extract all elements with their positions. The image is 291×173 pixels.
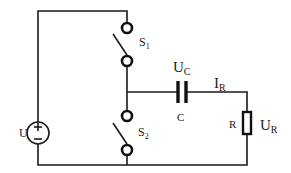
switch-s1: S1	[113, 23, 150, 66]
s1-top-terminal-icon	[122, 23, 132, 33]
s2-top-terminal-icon	[122, 111, 132, 121]
resistor-voltage-label: UR	[260, 117, 278, 135]
resistor: R UR	[229, 112, 278, 135]
s1-bottom-terminal-icon	[122, 56, 132, 66]
capacitor-voltage-label: UC	[173, 59, 191, 77]
s2-blade-icon	[113, 123, 127, 144]
circuit-diagram: U S1 S2 C UC IR R UR	[0, 0, 291, 173]
capacitor-label: C	[177, 111, 184, 123]
top-left-wire	[38, 11, 127, 122]
s2-bottom-terminal-icon	[122, 145, 132, 155]
source-label: U	[19, 126, 28, 140]
current-label: IR	[214, 75, 226, 93]
s2-label: S2	[138, 125, 149, 141]
resistor-label: R	[229, 118, 237, 130]
s1-blade-icon	[113, 34, 127, 55]
s1-label: S1	[139, 35, 150, 51]
capacitor: C UC	[173, 59, 191, 123]
switch-s2: S2	[113, 111, 149, 155]
voltage-source: U	[19, 122, 49, 144]
resistor-body-icon	[243, 112, 251, 134]
wire-to-resistor	[186, 92, 247, 112]
